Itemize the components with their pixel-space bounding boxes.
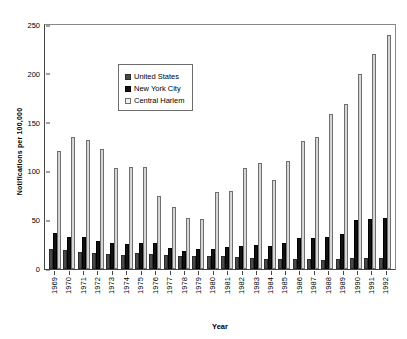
bar-central-harlem-1988 xyxy=(329,114,333,269)
x-axis-tick-1975: 1975 xyxy=(134,271,148,317)
bar-group-1989 xyxy=(335,25,349,269)
bar-central-harlem-1992 xyxy=(387,35,391,269)
x-axis-tick-label: 1978 xyxy=(180,277,189,294)
x-axis-tick-mark xyxy=(69,271,70,275)
bar-central-harlem-1982 xyxy=(243,168,247,270)
tuberculosis-notification-bar-chart: Notifications per 100,000 05010015020025… xyxy=(0,0,407,339)
bar-central-harlem-1986 xyxy=(301,141,305,269)
x-axis-tick-label: 1979 xyxy=(194,277,203,294)
x-axis-tick-mark xyxy=(256,271,257,275)
x-axis-tick-mark xyxy=(299,271,300,275)
bar-central-harlem-1977 xyxy=(172,207,176,269)
bar-series-container xyxy=(45,25,395,269)
x-axis-tick-1969: 1969 xyxy=(47,271,61,317)
y-axis-tick-50: 50 xyxy=(32,216,45,225)
bar-group-1991 xyxy=(363,25,377,269)
x-axis-tick-label: 1970 xyxy=(64,277,73,294)
x-axis-tick-1987: 1987 xyxy=(307,271,321,317)
legend-label-new-york-city: New York City xyxy=(134,84,181,93)
x-axis-tick-label: 1984 xyxy=(266,277,275,294)
x-axis-tick-label: 1977 xyxy=(165,277,174,294)
x-axis-tick-mark xyxy=(184,271,185,275)
bar-central-harlem-1971 xyxy=(86,140,90,269)
bar-group-1969 xyxy=(48,25,62,269)
bar-group-1988 xyxy=(320,25,334,269)
x-axis-tick-1983: 1983 xyxy=(249,271,263,317)
bar-central-harlem-1969 xyxy=(57,151,61,269)
x-axis-tick-label: 1988 xyxy=(324,277,333,294)
x-axis-tick-1972: 1972 xyxy=(90,271,104,317)
bar-central-harlem-1980 xyxy=(215,192,219,269)
x-axis-tick-mark xyxy=(97,271,98,275)
x-axis-tick-label: 1973 xyxy=(107,277,116,294)
bar-central-harlem-1987 xyxy=(315,137,319,269)
bar-group-1976 xyxy=(148,25,162,269)
bar-group-1982 xyxy=(234,25,248,269)
x-axis-tick-1986: 1986 xyxy=(292,271,306,317)
bar-central-harlem-1984 xyxy=(272,180,276,269)
bar-central-harlem-1976 xyxy=(157,196,161,269)
bar-group-1984 xyxy=(263,25,277,269)
x-axis-tick-1992: 1992 xyxy=(379,271,393,317)
bar-group-1975 xyxy=(134,25,148,269)
legend-item-united-states: United States xyxy=(125,72,184,81)
x-axis-tick-mark xyxy=(141,271,142,275)
x-axis-tick-label: 1971 xyxy=(79,277,88,294)
x-axis-tick-label: 1991 xyxy=(367,277,376,294)
x-axis-tick-mark xyxy=(314,271,315,275)
x-axis-tick-1971: 1971 xyxy=(76,271,90,317)
y-axis-tick-100: 100 xyxy=(27,167,45,176)
bar-group-1981 xyxy=(220,25,234,269)
x-axis-tick-1991: 1991 xyxy=(364,271,378,317)
bar-central-harlem-1989 xyxy=(344,104,348,269)
x-axis-tick-mark xyxy=(285,271,286,275)
bar-group-1985 xyxy=(277,25,291,269)
x-axis-tick-1976: 1976 xyxy=(148,271,162,317)
x-axis-tick-mark xyxy=(343,271,344,275)
bar-group-1972 xyxy=(91,25,105,269)
bar-central-harlem-1974 xyxy=(129,167,133,269)
x-axis-tick-mark xyxy=(170,271,171,275)
bar-group-1978 xyxy=(177,25,191,269)
bar-group-1977 xyxy=(163,25,177,269)
x-axis-tick-label: 1990 xyxy=(353,277,362,294)
x-axis-tick-mark xyxy=(371,271,372,275)
x-axis-tick-mark xyxy=(54,271,55,275)
x-axis-tick-mark xyxy=(112,271,113,275)
x-axis-title: Year xyxy=(44,322,396,331)
x-axis-tick-label: 1974 xyxy=(122,277,131,294)
bar-central-harlem-1970 xyxy=(71,137,75,269)
bar-central-harlem-1972 xyxy=(100,149,104,269)
x-axis-tick-1979: 1979 xyxy=(191,271,205,317)
bar-central-harlem-1991 xyxy=(372,54,376,269)
legend-label-united-states: United States xyxy=(134,72,179,81)
x-axis-tick-label: 1980 xyxy=(208,277,217,294)
x-axis-tick-mark xyxy=(198,271,199,275)
x-axis-tick-label: 1972 xyxy=(93,277,102,294)
central-harlem-swatch-icon xyxy=(125,98,131,104)
y-axis-tick-mark xyxy=(46,269,50,270)
x-axis-tick-1977: 1977 xyxy=(162,271,176,317)
bar-group-1992 xyxy=(378,25,392,269)
bar-central-harlem-1979 xyxy=(200,219,204,269)
bar-group-1979 xyxy=(191,25,205,269)
x-axis-tick-list: 1969197019711972197319741975197619771978… xyxy=(44,271,396,317)
x-axis-tick-label: 1983 xyxy=(252,277,261,294)
bar-central-harlem-1981 xyxy=(229,191,233,269)
x-axis-tick-1980: 1980 xyxy=(206,271,220,317)
x-axis-tick-label: 1982 xyxy=(237,277,246,294)
bar-group-1974 xyxy=(120,25,134,269)
x-axis-tick-label: 1992 xyxy=(381,277,390,294)
x-axis-tick-mark xyxy=(271,271,272,275)
y-axis-tick-250: 250 xyxy=(27,21,45,30)
bar-central-harlem-1985 xyxy=(286,161,290,269)
nyc-swatch-icon xyxy=(125,86,131,92)
bar-group-1970 xyxy=(62,25,76,269)
x-axis-tick-label: 1969 xyxy=(50,277,59,294)
x-axis-tick-mark xyxy=(227,271,228,275)
x-axis-tick-1978: 1978 xyxy=(177,271,191,317)
us-swatch-icon xyxy=(125,74,131,80)
bar-group-1971 xyxy=(77,25,91,269)
x-axis-tick-label: 1989 xyxy=(338,277,347,294)
x-axis-tick-label: 1981 xyxy=(223,277,232,294)
